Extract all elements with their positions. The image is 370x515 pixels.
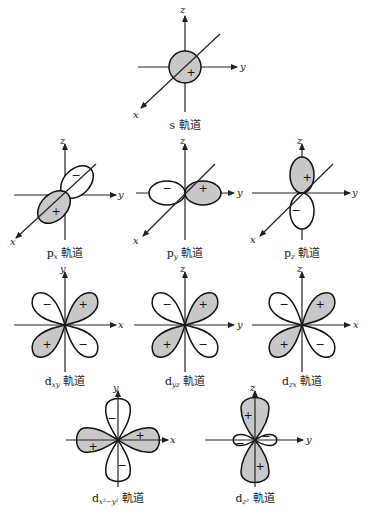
z-axis-label: z — [249, 382, 256, 393]
minus-sign: − — [235, 437, 244, 450]
caption-dyz: dyz 軌道 — [165, 374, 205, 389]
x-axis-label: x — [10, 236, 16, 247]
plus-sign: + — [186, 66, 195, 79]
y-axis-label: y — [236, 319, 243, 330]
minus-sign: − — [107, 412, 116, 425]
x-axis — [141, 34, 220, 108]
plus-sign: + — [279, 338, 288, 351]
y-axis-label: y — [236, 187, 243, 198]
s-orbital: z y x + s 軌道 — [133, 4, 246, 132]
minus-sign: − — [71, 169, 80, 182]
minus-sign: − — [279, 298, 288, 311]
y-axis-label: y — [117, 189, 124, 200]
pz-orbital: z y x + − pz 軌道 — [250, 135, 358, 261]
caption-px: px 軌道 — [47, 246, 84, 261]
z-axis-label: z — [296, 263, 303, 274]
x-axis-label: x — [250, 234, 256, 245]
caption-pz: pz 軌道 — [284, 246, 320, 261]
plus-sign: + — [78, 298, 87, 311]
plus-sign: + — [42, 338, 51, 351]
caption-s: s 軌道 — [169, 118, 200, 132]
plus-sign: + — [255, 460, 264, 473]
x-axis-label: x — [133, 235, 139, 246]
minus-sign: − — [291, 204, 300, 217]
x-axis-label: x — [133, 109, 139, 120]
minus-sign: − — [78, 338, 87, 351]
x-axis-label: x — [353, 319, 359, 330]
plus-sign: + — [315, 298, 324, 311]
minus-sign: − — [117, 459, 126, 472]
y-axis-label: y — [112, 382, 119, 393]
plus-sign: + — [198, 182, 207, 195]
dyz-orbital: z y + − + − dyz 軌道 — [134, 263, 243, 389]
minus-sign: − — [261, 430, 270, 443]
minus-sign: − — [42, 298, 51, 311]
dxy-orbital: y x + − + − dxy 軌道 — [14, 263, 124, 389]
caption-dx2y2: dx²−y² 軌道 — [92, 491, 144, 506]
dz2-orbital: z y + − + − dz² 軌道 — [205, 382, 312, 506]
plus-sign: + — [135, 429, 144, 442]
y-axis-label: y — [305, 434, 312, 445]
plus-sign: + — [88, 440, 97, 453]
z-axis-label: z — [179, 263, 186, 274]
plus-sign: + — [243, 409, 252, 422]
z-axis-label: z — [179, 4, 186, 15]
x-axis — [16, 164, 96, 238]
minus-sign: − — [162, 182, 171, 195]
plus-sign: + — [162, 338, 171, 351]
y-axis-label: y — [239, 61, 246, 72]
atomic-orbitals-diagram: z y x + s 軌道 z y x + − px 軌道 z y x + − p… — [0, 0, 370, 515]
minus-sign: − — [198, 338, 207, 351]
dzx-orbital: z x + − + − dzx 軌道 — [252, 263, 359, 389]
z-axis-label: z — [59, 135, 66, 146]
dx2y2-orbital: y x + − + − dx²−y² 軌道 — [66, 382, 176, 506]
px-orbital: z y x + − px 軌道 — [10, 135, 124, 261]
x-axis-label: x — [118, 319, 124, 330]
plus-sign: + — [51, 205, 60, 218]
caption-dz2: dz² 軌道 — [235, 491, 274, 506]
plus-sign: + — [198, 298, 207, 311]
minus-sign: − — [162, 298, 171, 311]
minus-sign: − — [315, 338, 324, 351]
z-axis-label: z — [296, 135, 303, 146]
caption-dzx: dzx 軌道 — [282, 374, 322, 389]
caption-dxy: dxy 軌道 — [45, 374, 85, 389]
x-axis-label: x — [170, 434, 176, 445]
plus-sign: + — [302, 171, 311, 184]
z-axis-label: z — [179, 135, 186, 146]
y-axis-label: y — [59, 263, 66, 274]
py-orbital: z y x + − py 軌道 — [133, 135, 243, 261]
caption-py: py 軌道 — [167, 246, 204, 261]
y-axis-label: y — [351, 187, 358, 198]
